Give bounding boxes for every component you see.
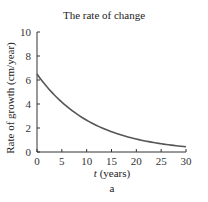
data-line [37, 74, 186, 147]
y-tick-label: 8 [26, 50, 32, 62]
y-tick-label: 10 [20, 26, 32, 38]
x-tick-label: 15 [106, 155, 118, 167]
y-tick-label: 0 [26, 146, 32, 158]
x-tick-label: 25 [156, 155, 168, 167]
x-tick-label: 30 [181, 155, 193, 167]
plot-area: 0510152025300246810 [0, 0, 208, 202]
y-tick-label: 6 [26, 74, 32, 86]
x-tick-label: 5 [59, 155, 65, 167]
x-tick-label: 10 [81, 155, 93, 167]
y-tick-label: 2 [26, 122, 32, 134]
x-tick-label: 0 [34, 155, 40, 167]
y-tick-label: 4 [26, 98, 32, 110]
x-tick-label: 20 [131, 155, 143, 167]
